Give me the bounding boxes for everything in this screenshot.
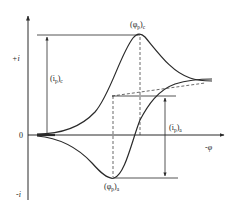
anodic-peak-current-label: (ip)a	[169, 123, 182, 133]
y-positive-label: +i	[12, 54, 20, 63]
x-axis-label: -φ	[205, 143, 213, 152]
cathodic-peak-current-label: (ip)c	[50, 74, 63, 84]
cathodic-peak-potential-label: (φp)c	[130, 20, 146, 30]
origin-label: 0	[19, 131, 23, 140]
anodic-peak-potential-label: (φp)a	[104, 182, 120, 192]
anodic-curve	[37, 79, 212, 178]
y-negative-label: -i	[16, 190, 21, 199]
cyclic-voltammogram-figure: +i -i 0 -φ (φp)c (φp)a (ip)c (ip)a	[0, 0, 235, 208]
cathodic-curve	[37, 34, 212, 134]
